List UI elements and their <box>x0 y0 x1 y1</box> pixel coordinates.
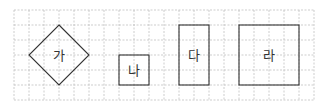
shape-ra: 라 <box>239 25 299 85</box>
shape-ga: 가 <box>29 25 89 85</box>
shape-label-ra: 라 <box>263 48 275 63</box>
shape-label-na: 나 <box>128 63 140 78</box>
shape-label-ga: 가 <box>53 48 65 63</box>
shape-label-da: 다 <box>188 48 200 63</box>
grid-diagram: 가 나 다 라 <box>0 0 324 101</box>
